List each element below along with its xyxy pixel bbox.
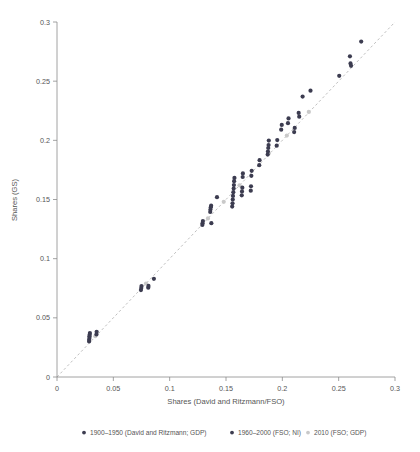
- y-tick-label: 0.15: [36, 195, 50, 204]
- legend-marker: [306, 431, 310, 435]
- y-tick-label: 0.3: [40, 18, 50, 27]
- data-point: [307, 110, 311, 114]
- data-point: [215, 195, 219, 199]
- data-point: [286, 116, 290, 120]
- data-point: [279, 128, 283, 132]
- y-tick-label: 0: [46, 373, 50, 382]
- data-point: [240, 186, 244, 190]
- data-point: [240, 189, 244, 193]
- data-point: [206, 216, 210, 220]
- x-tick-label: 0.2: [277, 384, 287, 393]
- data-point: [222, 200, 226, 204]
- data-point: [88, 331, 92, 335]
- data-point: [349, 64, 353, 68]
- data-point: [286, 121, 290, 125]
- data-point: [257, 158, 261, 162]
- data-point: [240, 193, 244, 197]
- scatter-plot-figure: 00.050.10.150.20.250.3 00.050.10.150.20.…: [0, 0, 420, 452]
- data-point: [359, 39, 363, 43]
- legend-marker: [230, 431, 234, 435]
- data-point: [139, 284, 143, 288]
- data-point: [249, 189, 253, 193]
- data-point: [209, 204, 213, 208]
- x-tick-label: 0.1: [165, 384, 175, 393]
- data-point: [275, 144, 279, 148]
- data-point: [301, 94, 305, 98]
- data-point: [275, 138, 279, 142]
- data-point: [292, 130, 296, 134]
- x-axis-title: Shares (David and Ritzmann/FSO): [167, 397, 285, 406]
- x-tick-label: 0.25: [332, 384, 346, 393]
- data-point: [249, 174, 253, 178]
- data-point: [266, 149, 270, 153]
- data-point: [337, 74, 341, 78]
- data-point: [146, 284, 150, 288]
- data-point: [249, 184, 253, 188]
- chart-canvas: 00.050.10.150.20.250.3 00.050.10.150.20.…: [0, 0, 420, 452]
- x-tick-label: 0.05: [106, 384, 120, 393]
- data-point: [201, 219, 205, 223]
- y-axis-title: Shares (GS): [10, 178, 19, 221]
- x-tick-label: 0: [55, 384, 59, 393]
- data-point: [297, 111, 301, 115]
- data-point: [95, 330, 99, 334]
- y-tick-label: 0.1: [40, 254, 50, 263]
- legend-label: 2010 (FSO; GDP): [314, 429, 366, 437]
- data-point: [266, 143, 270, 147]
- data-point: [209, 221, 213, 225]
- data-point: [230, 201, 234, 205]
- x-tick-label: 0.3: [390, 384, 400, 393]
- data-point: [348, 54, 352, 58]
- y-tick-label: 0.05: [36, 313, 50, 322]
- legend-label: 1960–2000 (FSO; NI): [238, 429, 301, 437]
- y-tick-label: 0.25: [36, 77, 50, 86]
- chart-background: [0, 0, 420, 452]
- data-point: [257, 163, 261, 167]
- data-point: [285, 134, 289, 138]
- data-point: [250, 169, 254, 173]
- x-tick-label: 0.15: [219, 384, 233, 393]
- data-point: [232, 176, 236, 180]
- legend-marker: [82, 431, 86, 435]
- data-point: [280, 123, 284, 127]
- data-point: [231, 194, 235, 198]
- data-point: [293, 126, 297, 130]
- data-point: [241, 171, 245, 175]
- data-point: [231, 190, 235, 194]
- y-tick-label: 0.2: [40, 136, 50, 145]
- legend-label: 1900–1950 (David and Ritzmann; GDP): [90, 429, 207, 437]
- data-point: [267, 138, 271, 142]
- data-point: [232, 183, 236, 187]
- data-point: [152, 277, 156, 281]
- data-point: [297, 115, 301, 119]
- data-point: [308, 89, 312, 93]
